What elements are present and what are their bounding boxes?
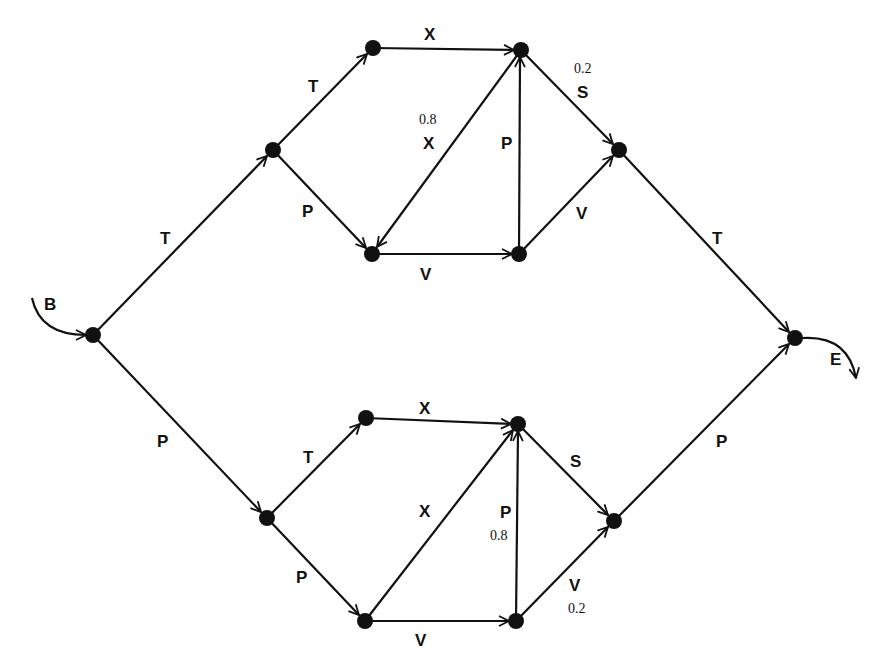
edge-l1-l2 (267, 424, 360, 518)
label-u3-u4: X (423, 134, 435, 153)
label-e: E (830, 350, 841, 369)
node-l2 (358, 410, 374, 426)
edge-u5-u6 (519, 156, 613, 254)
label-l3-l6: S (570, 452, 581, 471)
node-l4 (357, 613, 373, 629)
prob-u3-u6: 0.2 (574, 61, 592, 76)
edge-start-u1 (93, 156, 267, 335)
node-l3 (510, 416, 526, 432)
edge-u3-u4 (377, 50, 521, 247)
node-l5 (508, 613, 524, 629)
edge-l1-l4 (267, 518, 359, 615)
label-u5-u3: P (501, 134, 512, 153)
node-u2 (365, 40, 381, 56)
label-u5-u6: V (576, 204, 588, 223)
edge-l5-l3 (516, 431, 518, 621)
edge-u1-u4 (273, 150, 366, 248)
label-start-l1: P (157, 432, 168, 451)
exit-arc-e (802, 338, 856, 378)
label-b: B (44, 295, 56, 314)
label-l1-l4: P (296, 568, 307, 587)
label-u1-u2: T (308, 77, 319, 96)
label-l3-l4: X (419, 502, 431, 521)
node-start (85, 327, 101, 343)
edge-u6-end (619, 150, 789, 332)
node-u5 (511, 246, 527, 262)
node-end (787, 330, 803, 346)
label-u1-u4: P (302, 202, 313, 221)
label-start-u1: T (160, 229, 171, 248)
label-l5-l3: P (500, 503, 511, 522)
entry-arc-b (32, 298, 86, 335)
node-l6 (606, 513, 622, 529)
label-u2-u3: X (424, 25, 436, 44)
node-u1 (265, 142, 281, 158)
edge-l3-l6 (518, 424, 608, 515)
node-u3 (513, 42, 529, 58)
node-u6 (611, 142, 627, 158)
edge-l5-l6 (516, 527, 608, 621)
reber-grammar-diagram: B E T T P X 0.8 X 0.2 S P V V T P T P X … (0, 0, 888, 665)
edge-u2-u3 (373, 48, 514, 50)
edge-u3-u6 (521, 50, 613, 144)
edge-u5-u3 (519, 57, 520, 254)
label-u4-u5: V (420, 265, 432, 284)
label-l4-l5: V (415, 631, 427, 650)
edge-u1-u2 (273, 54, 367, 150)
prob-u3-u4: 0.8 (419, 112, 437, 127)
edge-l4-l3 (365, 430, 513, 621)
edge-l2-l3 (366, 418, 511, 424)
prob-l5-l3: 0.8 (490, 528, 508, 543)
node-l1 (259, 510, 275, 526)
label-l2-l3: X (419, 399, 431, 418)
label-u6-end: T (712, 229, 723, 248)
label-u3-u6: S (577, 83, 588, 102)
label-l6-end: P (716, 432, 727, 451)
prob-l5-l6: 0.2 (568, 601, 586, 616)
edge-start-l1 (93, 335, 261, 512)
label-l1-l2: T (303, 448, 314, 467)
edge-l6-end (614, 344, 789, 521)
node-u4 (364, 246, 380, 262)
label-l5-l6: V (569, 576, 581, 595)
